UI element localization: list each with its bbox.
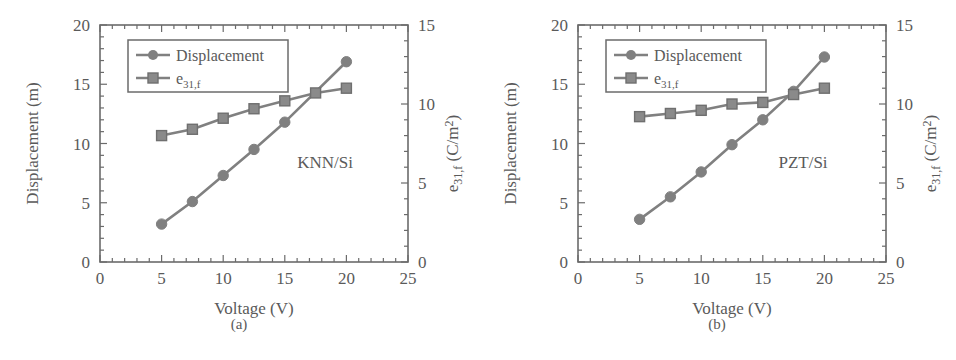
y-tick-label-right: 0 [896, 253, 905, 272]
data-point-e31f [635, 112, 645, 122]
chart-a: 0510152025Voltage (V)05101520Displacemen… [0, 0, 478, 360]
panel-b: 0510152025Voltage (V)05101520Displacemen… [478, 0, 956, 360]
data-point-displacement [156, 219, 166, 229]
y-tick-label-left: 5 [82, 194, 91, 213]
data-point-e31f [696, 105, 706, 115]
x-tick-label: 0 [96, 269, 105, 288]
legend-label-displacement[interactable]: Displacement [176, 47, 265, 65]
legend-marker-circle-icon [148, 50, 158, 60]
data-point-displacement [665, 192, 675, 202]
x-tick-label: 15 [276, 269, 293, 288]
y-tick-label-left: 10 [73, 135, 90, 154]
y-tick-label-right: 5 [418, 174, 427, 193]
x-tick-label: 5 [635, 269, 644, 288]
data-point-e31f [758, 97, 768, 107]
legend-label-displacement[interactable]: Displacement [654, 47, 743, 65]
y-tick-label-left: 20 [551, 16, 568, 35]
y-tick-label-left: 15 [551, 75, 568, 94]
data-point-displacement [634, 214, 644, 224]
data-point-e31f [157, 131, 167, 141]
y-tick-label-right: 10 [896, 95, 913, 114]
chart-b: 0510152025Voltage (V)05101520Displacemen… [478, 0, 956, 360]
caption-b: (b) [478, 316, 956, 333]
y-axis-label-left: Displacement (m) [23, 82, 42, 204]
y-tick-label-left: 0 [560, 253, 569, 272]
data-point-e31f [249, 104, 259, 114]
y-tick-label-right: 10 [418, 95, 435, 114]
y-tick-label-right: 0 [418, 253, 427, 272]
y-axis-label-left: Displacement (m) [501, 82, 520, 204]
figure-container: 0510152025Voltage (V)05101520Displacemen… [0, 0, 956, 360]
data-point-displacement [280, 117, 290, 127]
data-point-e31f [819, 83, 829, 93]
panel-annotation: PZT/Si [778, 153, 827, 172]
x-tick-label: 25 [878, 269, 895, 288]
data-point-displacement [727, 139, 737, 149]
y-tick-label-right: 15 [896, 16, 913, 35]
data-point-e31f [280, 96, 290, 106]
data-point-displacement [696, 167, 706, 177]
x-tick-label: 10 [693, 269, 710, 288]
y-tick-label-left: 10 [551, 135, 568, 154]
panel-annotation: KNN/Si [297, 153, 353, 172]
x-tick-label: 20 [338, 269, 355, 288]
x-tick-label: 20 [816, 269, 833, 288]
data-point-e31f [665, 108, 675, 118]
data-point-e31f [311, 88, 321, 98]
data-point-displacement [819, 52, 829, 62]
x-tick-label: 25 [400, 269, 417, 288]
y-axis-label-right: e31,f (C/m2) [442, 115, 465, 192]
y-tick-label-left: 0 [82, 253, 91, 272]
data-point-e31f [187, 124, 197, 134]
legend-marker-square-icon [148, 73, 158, 83]
caption-a: (a) [0, 316, 478, 333]
y-axis-label-right: e31,f (C/m2) [920, 115, 943, 192]
x-tick-label: 10 [215, 269, 232, 288]
data-point-displacement [758, 115, 768, 125]
legend-marker-square-icon [626, 73, 636, 83]
data-point-e31f [341, 83, 351, 93]
data-point-displacement [218, 170, 228, 180]
data-point-displacement [341, 57, 351, 67]
x-tick-label: 15 [754, 269, 771, 288]
y-tick-label-right: 15 [418, 16, 435, 35]
legend-marker-circle-icon [626, 50, 636, 60]
data-point-e31f [789, 90, 799, 100]
x-tick-label: 0 [574, 269, 583, 288]
data-point-e31f [218, 113, 228, 123]
y-tick-label-left: 5 [560, 194, 569, 213]
y-tick-label-left: 20 [73, 16, 90, 35]
x-tick-label: 5 [157, 269, 166, 288]
data-point-e31f [727, 99, 737, 109]
panel-a: 0510152025Voltage (V)05101520Displacemen… [0, 0, 478, 360]
data-point-displacement [187, 196, 197, 206]
y-tick-label-right: 5 [896, 174, 905, 193]
y-tick-label-left: 15 [73, 75, 90, 94]
data-point-displacement [249, 144, 259, 154]
